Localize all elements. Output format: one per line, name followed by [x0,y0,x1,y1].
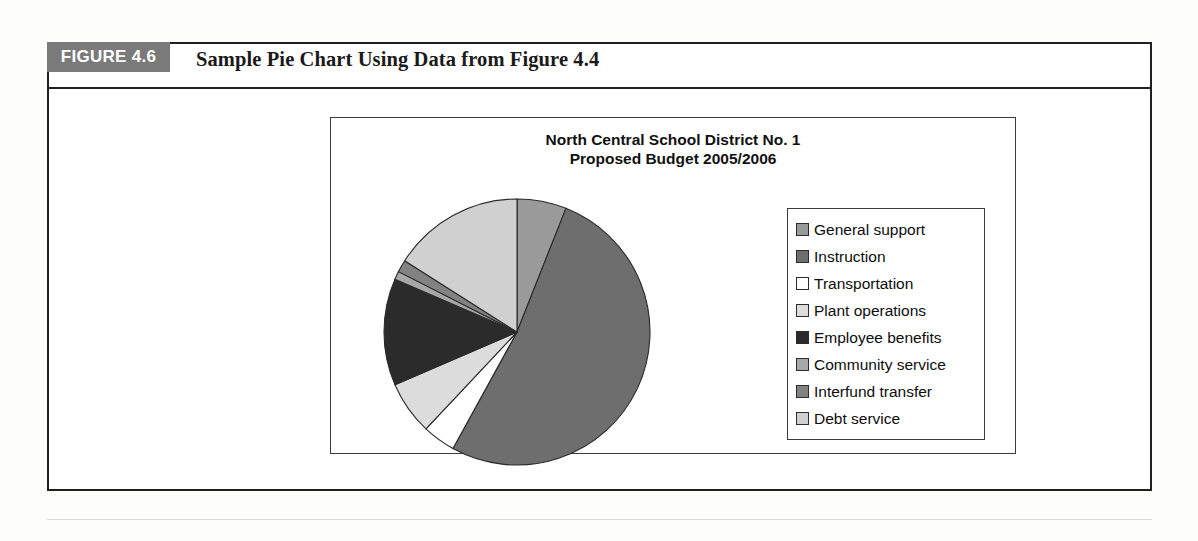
legend-item-label: Community service [814,357,946,373]
legend-swatch-icon [796,358,809,371]
pie-chart [381,196,653,468]
legend-item-label: Debt service [814,411,900,427]
chart-title-line-2: Proposed Budget 2005/2006 [331,149,1015,168]
figure-caption: Sample Pie Chart Using Data from Figure … [196,44,599,74]
legend-swatch-icon [796,250,809,263]
page-background: FIGURE 4.6 Sample Pie Chart Using Data f… [0,0,1198,541]
legend-item[interactable]: Community service [796,351,978,378]
pie-chart-svg [381,196,653,468]
legend-item-label: Transportation [814,276,913,292]
legend-item[interactable]: Plant operations [796,297,978,324]
chart-legend: General supportInstructionTransportation… [787,208,985,440]
legend-swatch-icon [796,331,809,344]
caption-divider [47,87,1152,89]
legend-swatch-icon [796,277,809,290]
legend-item-label: General support [814,222,925,238]
legend-item-label: Plant operations [814,303,926,319]
legend-item[interactable]: Instruction [796,243,978,270]
figure-caption-text: Sample Pie Chart Using Data from Figure … [196,48,599,71]
figure-number-tab: FIGURE 4.6 [47,42,170,72]
legend-swatch-icon [796,304,809,317]
chart-title: North Central School District No. 1 Prop… [331,130,1015,168]
legend-item-label: Instruction [814,249,886,265]
legend-swatch-icon [796,385,809,398]
legend-item[interactable]: Debt service [796,405,978,432]
legend-swatch-icon [796,223,809,236]
chart-title-line-1: North Central School District No. 1 [546,131,801,148]
chart-container: North Central School District No. 1 Prop… [330,117,1016,454]
legend-item[interactable]: General support [796,216,978,243]
legend-item[interactable]: Interfund transfer [796,378,978,405]
legend-item[interactable]: Transportation [796,270,978,297]
legend-item-label: Interfund transfer [814,384,932,400]
legend-item[interactable]: Employee benefits [796,324,978,351]
figure-number-label: FIGURE 4.6 [61,47,157,67]
legend-item-label: Employee benefits [814,330,942,346]
legend-swatch-icon [796,412,809,425]
page-bottom-rule [47,519,1152,520]
